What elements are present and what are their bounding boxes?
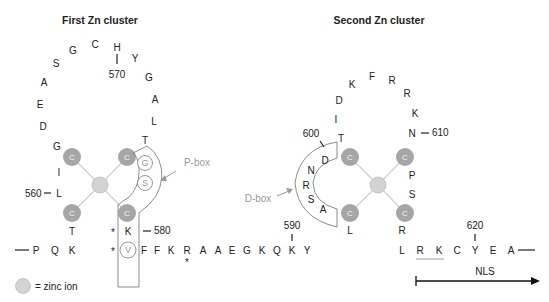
second-cluster-title: Second Zn cluster [333, 14, 424, 26]
residue: L [151, 116, 157, 127]
legend: = zinc ion [16, 279, 78, 294]
residue: Y [132, 53, 139, 64]
residue: K [289, 245, 296, 256]
cysteine-label: C [402, 209, 408, 218]
residue: R [416, 245, 423, 256]
residue: L [347, 225, 353, 236]
residue: K [125, 226, 132, 237]
position-580: 580 [154, 225, 171, 236]
cysteine-label: C [402, 153, 408, 162]
cysteine-label: C [69, 153, 75, 162]
residue: G [243, 245, 251, 256]
d-box-residue: N [307, 165, 314, 176]
residue: R [398, 225, 405, 236]
d-box-outline [295, 142, 337, 227]
arrow-right-icon [531, 277, 540, 285]
zinc-ion-icon [370, 177, 386, 193]
legend-label: = zinc ion [35, 281, 78, 292]
residue: Y [472, 245, 479, 256]
position-590: 590 [284, 220, 301, 231]
residue: K [168, 245, 175, 256]
residue: Q [51, 245, 59, 256]
d-box-arrow [277, 191, 289, 196]
second-zn-cluster: T I D K F R R K N 610 P S C C C C D N R … [245, 71, 449, 236]
residue: A [152, 94, 159, 105]
residue: G [145, 72, 153, 83]
cysteine-label: C [124, 153, 130, 162]
dna-binding-domain-diagram: First Zn cluster Second Zn cluster G D E… [0, 0, 549, 302]
residue: G [69, 45, 77, 56]
cysteine-label: C [69, 209, 75, 218]
residue: H [113, 42, 120, 53]
residue: C [91, 39, 98, 50]
d-box-residue: R [302, 180, 309, 191]
residue: N [408, 128, 415, 139]
d-box-residue: D [321, 155, 328, 166]
position-560: 560 [25, 188, 42, 199]
residue: V [125, 245, 131, 255]
residue: P [409, 170, 416, 181]
cysteine-label: C [347, 153, 353, 162]
residue: D [335, 95, 342, 106]
star-marker: * [111, 246, 115, 257]
residue: F [141, 245, 147, 256]
residue: R [403, 88, 410, 99]
residue: K [259, 245, 266, 256]
residue: A [200, 245, 207, 256]
position-620: 620 [467, 220, 484, 231]
residue: S [53, 58, 60, 69]
residue: E [229, 245, 236, 256]
p-box-label: P-box [184, 157, 210, 168]
nls-label: NLS [475, 266, 495, 277]
residue: Q [273, 245, 281, 256]
residue: R [183, 245, 190, 256]
residue: T [338, 133, 344, 144]
residue: Y [304, 245, 311, 256]
residue: K [436, 245, 443, 256]
position-600: 600 [303, 128, 320, 139]
position-570: 570 [109, 69, 126, 80]
residue: K [349, 79, 356, 90]
residue: P [33, 245, 40, 256]
star-marker: * [185, 257, 189, 268]
residue: I [335, 114, 338, 125]
sequence-line: P Q K * V F F K R A A E G K Q K Y * 590 … [15, 220, 535, 268]
d-box-label: D-box [245, 193, 272, 204]
d-box-residue: S [308, 194, 315, 205]
nls-indicator: NLS [416, 266, 540, 287]
arrow-head-icon [286, 188, 293, 194]
residue: C [453, 245, 460, 256]
residue: A [508, 245, 515, 256]
first-cluster-title: First Zn cluster [62, 14, 138, 26]
p-box-residue: S [142, 178, 148, 188]
residue: T [142, 135, 148, 146]
residue: E [37, 99, 44, 110]
residue: A [41, 77, 48, 88]
residue: E [490, 245, 497, 256]
residue: R [388, 75, 395, 86]
zinc-ion-legend-icon [16, 279, 31, 294]
p-box-residue: G [141, 158, 148, 168]
star-marker: * [111, 227, 115, 238]
arrow-head-icon [160, 175, 167, 181]
residue: L [399, 245, 405, 256]
residue: K [69, 245, 76, 256]
cysteine-label: C [347, 209, 353, 218]
residue: I [58, 167, 61, 178]
residue: A [215, 245, 222, 256]
residue: K [412, 108, 419, 119]
residue: D [39, 121, 46, 132]
zinc-ion-icon [92, 177, 108, 193]
residue: L [56, 188, 62, 199]
residue: T [69, 226, 75, 237]
residue: G [53, 141, 61, 152]
residue: F [154, 245, 160, 256]
residue: S [409, 189, 416, 200]
position-610: 610 [432, 127, 449, 138]
d-box-residue: A [320, 204, 327, 215]
residue: F [369, 71, 375, 82]
cysteine-label: C [124, 209, 130, 218]
